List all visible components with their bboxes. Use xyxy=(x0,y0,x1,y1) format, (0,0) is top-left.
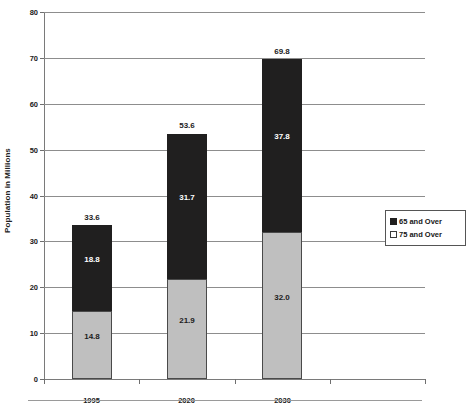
bar-segment-65-and-over[interactable] xyxy=(72,225,112,311)
gridline xyxy=(44,104,425,105)
bar-value-label-75-and-over: 14.8 xyxy=(72,332,112,341)
y-axis-tick-mark xyxy=(40,58,44,59)
y-axis-tick-mark xyxy=(40,150,44,151)
legend-swatch-icon-65-and-over xyxy=(390,218,397,225)
bar-stack[interactable]: 14.818.833.6 xyxy=(72,225,112,379)
plot-area: 80706050403020100 14.818.833.621.931.753… xyxy=(44,12,425,380)
legend-label-75-and-over: 75 and Over xyxy=(399,230,442,239)
bar-value-label-65-and-over: 37.8 xyxy=(262,132,302,141)
gridline xyxy=(44,150,425,151)
y-axis-tick-mark xyxy=(40,333,44,334)
bar-total-label: 33.6 xyxy=(72,213,112,222)
bar-value-label-75-and-over: 32.0 xyxy=(262,293,302,302)
y-axis-title: Population in Millions xyxy=(0,0,14,380)
legend-item-75-and-over: 75 and Over xyxy=(390,228,461,241)
bar-segment-65-and-over[interactable] xyxy=(262,59,302,232)
y-axis-tick-label: 10 xyxy=(30,329,38,338)
bar-segment-75-and-over[interactable] xyxy=(167,279,207,379)
x-axis-tick-mark xyxy=(330,379,331,384)
y-axis-tick-label: 60 xyxy=(30,100,38,109)
y-axis-tick-label: 0 xyxy=(34,375,38,384)
bar-value-label-65-and-over: 18.8 xyxy=(72,255,112,264)
y-axis-tick-label: 20 xyxy=(30,283,38,292)
y-axis-tick-mark xyxy=(40,104,44,105)
gridline xyxy=(44,12,425,13)
gridline xyxy=(44,58,425,59)
x-axis-tick-mark xyxy=(235,379,236,384)
y-axis-tick-label: 30 xyxy=(30,237,38,246)
x-axis-tick-mark xyxy=(139,379,140,384)
bar-segment-65-and-over[interactable] xyxy=(167,134,207,279)
y-axis-tick-mark xyxy=(40,196,44,197)
x-axis-tick-mark xyxy=(425,379,426,384)
bar-value-label-65-and-over: 31.7 xyxy=(167,193,207,202)
x-axis-tick-mark xyxy=(44,379,45,384)
legend-label-65-and-over: 65 and Over xyxy=(399,217,442,226)
bar-total-label: 69.8 xyxy=(262,47,302,56)
bar-value-label-75-and-over: 21.9 xyxy=(167,316,207,325)
y-axis-tick-mark xyxy=(40,12,44,13)
y-axis-tick-mark xyxy=(40,287,44,288)
y-axis-tick-label: 80 xyxy=(30,8,38,17)
chart-legend: 65 and Over 75 and Over xyxy=(385,210,466,246)
bar-segment-75-and-over[interactable] xyxy=(72,311,112,379)
bar-segment-75-and-over[interactable] xyxy=(262,232,302,379)
bar-stack[interactable]: 21.931.753.6 xyxy=(167,133,207,379)
y-axis-tick-label: 40 xyxy=(30,192,38,201)
gridline xyxy=(44,196,425,197)
legend-swatch-icon-75-and-over xyxy=(390,231,397,238)
y-axis-tick-mark xyxy=(40,241,44,242)
y-axis-tick-label: 70 xyxy=(30,54,38,63)
y-axis-tick-label: 50 xyxy=(30,146,38,155)
bottom-divider xyxy=(28,400,422,401)
legend-item-65-and-over: 65 and Over xyxy=(390,215,461,228)
y-axis-title-text: Population in Millions xyxy=(3,148,12,233)
bar-total-label: 53.6 xyxy=(167,121,207,130)
bar-stack[interactable]: 32.037.869.8 xyxy=(262,59,302,379)
